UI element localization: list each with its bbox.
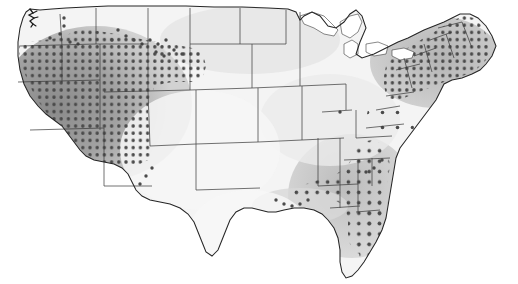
map-figure	[0, 0, 518, 284]
united-states-map	[0, 0, 518, 284]
